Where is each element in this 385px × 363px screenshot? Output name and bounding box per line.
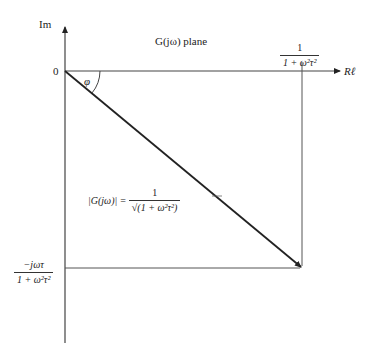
imag-projection-denominator: 1 + ω²τ² — [14, 272, 53, 285]
complex-plane-diagram — [0, 0, 385, 363]
real-projection-numerator: 1 — [294, 43, 305, 55]
imag-projection-value: −jωτ 1 + ω²τ² — [14, 260, 53, 285]
magnitude-lhs: |G(jω)| — [88, 195, 117, 206]
real-axis-label: Rℓ — [344, 66, 355, 77]
phasor-vector — [65, 71, 301, 267]
magnitude-fraction: 1 √(1 + ω²τ²) — [129, 188, 181, 213]
magnitude-denominator: √(1 + ω²τ²) — [129, 200, 181, 213]
imag-axis-label: Im — [39, 19, 51, 30]
origin-label: 0 — [53, 66, 59, 77]
magnitude-numerator: 1 — [149, 188, 160, 200]
plane-title: G(jω) plane — [155, 36, 207, 47]
magnitude-expression: |G(jω)| = 1 √(1 + ω²τ²) — [88, 188, 180, 213]
magnitude-equals: = — [120, 195, 126, 206]
angle-label: φ — [84, 76, 90, 87]
real-projection-value: 1 1 + ω²τ² — [280, 43, 319, 68]
angle-arc — [92, 71, 100, 93]
real-projection-denominator: 1 + ω²τ² — [280, 55, 319, 68]
imag-projection-numerator: −jωτ — [21, 260, 47, 272]
